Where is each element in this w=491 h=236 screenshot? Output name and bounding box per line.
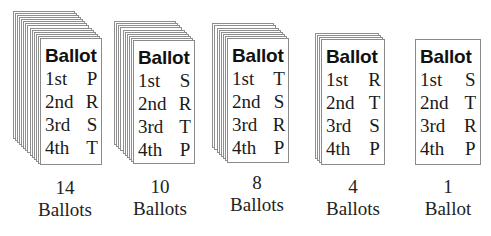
ballot-layer	[120, 27, 182, 151]
ballot-title: Ballot	[232, 45, 288, 67]
rank-label: 3rd	[420, 114, 461, 137]
ballot-card: Ballot 1stS 2ndT 3rdR 4thP	[415, 39, 481, 165]
candidate: T	[176, 115, 194, 138]
ballot-layer	[225, 36, 287, 161]
candidate: P	[461, 137, 480, 160]
ballot-rank-row: 1stS	[138, 69, 194, 92]
ballot-rank-row: 4thP	[232, 136, 288, 159]
ballot-layer	[315, 33, 379, 159]
rank-label: 4th	[45, 136, 83, 159]
candidate: P	[270, 136, 288, 159]
ballot-count-caption: 10 Ballots	[115, 176, 205, 220]
rank-label: 2nd	[326, 91, 365, 114]
ballot-count-label: Ballots	[308, 198, 398, 220]
ballot-rank-row: 3rdT	[138, 115, 194, 138]
rank-label: 1st	[138, 69, 176, 92]
candidate: P	[176, 138, 194, 161]
candidate: P	[83, 67, 101, 90]
ballot-rank-row: 1stP	[45, 67, 101, 90]
ballot-stack-14: Ballot 1stP 2ndR 3rdS 4thT 14 Ballots	[0, 0, 110, 236]
candidate: S	[461, 68, 480, 91]
ballot-layer	[123, 30, 185, 154]
rank-label: 2nd	[420, 91, 461, 114]
candidate: T	[365, 91, 384, 114]
candidate: T	[83, 136, 101, 159]
ballot-rank-row: 2ndR	[45, 90, 101, 113]
ballot-title: Ballot	[45, 45, 101, 67]
rank-label: 2nd	[232, 90, 270, 113]
candidate: S	[365, 114, 384, 137]
ballot-rank-row: 4thP	[420, 137, 480, 160]
ballot-count: 4	[308, 176, 398, 198]
ballot-rank-row: 2ndT	[326, 91, 384, 114]
ballot-rank-row: 3rdR	[420, 114, 480, 137]
ballot-layer	[223, 34, 285, 159]
candidate: S	[270, 90, 288, 113]
rank-label: 2nd	[138, 92, 176, 115]
candidate: R	[176, 92, 194, 115]
rank-label: 1st	[45, 67, 83, 90]
ballot-layer	[125, 32, 187, 156]
ballot-rank-row: 4thT	[45, 136, 101, 159]
candidate: S	[176, 69, 194, 92]
ballot-rank-row: 3rdS	[45, 113, 101, 136]
candidate: T	[461, 91, 480, 114]
ballot-count-caption: 1 Ballot	[403, 176, 491, 220]
ballot-rank-row: 1stT	[232, 67, 288, 90]
candidate: T	[270, 67, 288, 90]
ballot-title: Ballot	[420, 46, 480, 68]
candidate: R	[461, 114, 480, 137]
ballot-layer	[212, 23, 274, 148]
rank-label: 3rd	[232, 113, 270, 136]
ballot-layer	[319, 37, 383, 163]
rank-label: 2nd	[45, 90, 83, 113]
ballot-count-label: Ballots	[212, 194, 302, 216]
ballot-card: Ballot 1stT 2ndS 3rdR 4thP	[227, 38, 289, 163]
ballot-layer	[118, 25, 180, 149]
ballot-card: Ballot 1stR 2ndT 3rdS 4thP	[321, 39, 385, 165]
ballot-rank-row: 3rdR	[232, 113, 288, 136]
ballot-count-caption: 14 Ballots	[20, 177, 110, 221]
ballot-rank-row: 2ndS	[232, 90, 288, 113]
rank-label: 4th	[326, 137, 365, 160]
ballot-layer	[219, 30, 281, 155]
ballot-card: Ballot 1stP 2ndR 3rdS 4thT	[40, 38, 102, 165]
candidate: R	[365, 68, 384, 91]
ballot-count-label: Ballots	[20, 199, 110, 221]
rank-label: 3rd	[45, 113, 83, 136]
ballot-count-caption: 4 Ballots	[308, 176, 398, 220]
ballot-count: 1	[403, 176, 491, 198]
candidate: P	[365, 137, 384, 160]
ballot-layer	[217, 28, 279, 153]
ballot-rank-row: 4thP	[326, 137, 384, 160]
ballot-layer	[116, 23, 178, 147]
rank-label: 1st	[420, 68, 461, 91]
rank-label: 1st	[232, 67, 270, 90]
ballot-title: Ballot	[326, 46, 384, 68]
ballot-layer	[129, 36, 191, 160]
ballot-layer	[114, 21, 176, 145]
ballot-count-caption: 8 Ballots	[212, 172, 302, 216]
rank-label: 3rd	[138, 115, 176, 138]
ballot-rank-row: 4thP	[138, 138, 194, 161]
ballot-rank-row: 1stS	[420, 68, 480, 91]
rank-label: 4th	[138, 138, 176, 161]
candidate: R	[270, 113, 288, 136]
rank-label: 4th	[420, 137, 461, 160]
ballot-layer	[317, 35, 381, 161]
ballot-rank-row: 3rdS	[326, 114, 384, 137]
ballot-layer	[221, 32, 283, 157]
ballot-layer	[127, 34, 189, 158]
candidate: R	[83, 90, 101, 113]
ballot-count-label: Ballots	[115, 198, 205, 220]
rank-label: 1st	[326, 68, 365, 91]
ballot-layer	[214, 25, 276, 150]
ballot-count-label: Ballot	[403, 198, 491, 220]
ballot-layer	[131, 38, 193, 162]
candidate: S	[83, 113, 101, 136]
rank-label: 4th	[232, 136, 270, 159]
ballot-rank-row: 1stR	[326, 68, 384, 91]
ballot-count: 10	[115, 176, 205, 198]
rank-label: 3rd	[326, 114, 365, 137]
ballot-rank-row: 2ndT	[420, 91, 480, 114]
